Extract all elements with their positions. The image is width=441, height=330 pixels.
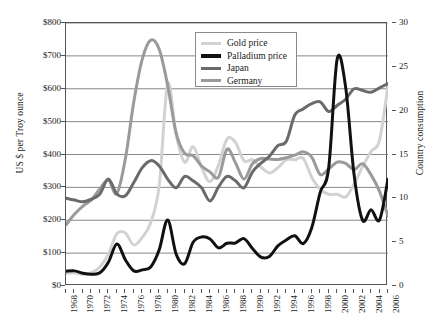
x-axis-tick (107, 289, 108, 293)
x-axis-tick-label: 1988 (238, 295, 248, 313)
x-axis-tick (167, 289, 168, 293)
x-axis-tick (268, 289, 269, 293)
x-axis-tick (243, 289, 244, 293)
y-axis-right-tick-label: 5 (399, 236, 421, 246)
x-axis-tick-label: 1996 (306, 295, 316, 313)
x-axis-tick-label: 2004 (374, 295, 384, 313)
x-axis-tick-label: 1986 (221, 295, 231, 313)
y-axis-right-tick (392, 285, 396, 286)
legend-swatch (201, 42, 221, 45)
y-axis-left-tick-label: $100 (31, 247, 61, 257)
x-axis-tick (285, 289, 286, 293)
x-axis-tick-label: 2002 (357, 295, 367, 313)
x-axis-tick (192, 289, 193, 293)
x-axis-tick (336, 289, 337, 293)
x-axis-tick (209, 289, 210, 293)
y-axis-right-tick-label: 25 (399, 61, 421, 71)
x-axis-tick (370, 289, 371, 293)
legend-item: Gold price (201, 37, 292, 50)
x-axis-tick (184, 289, 185, 293)
x-axis-tick-label: 1984 (204, 295, 214, 313)
x-axis-tick-label: 1990 (255, 295, 265, 313)
x-axis-tick (226, 289, 227, 293)
x-axis-tick (277, 289, 278, 293)
x-axis-tick (260, 289, 261, 293)
series-line (66, 83, 388, 201)
legend-swatch (201, 67, 221, 70)
y-axis-right-tick-label: 30 (399, 17, 421, 27)
x-axis-tick-label: 2000 (340, 295, 350, 313)
x-axis-tick (158, 289, 159, 293)
y-axis-right-ticks: 051015202530 (392, 22, 416, 285)
x-axis-tick (116, 289, 117, 293)
x-axis-tick (82, 289, 83, 293)
x-axis-tick (362, 289, 363, 293)
legend-label: Japan (227, 62, 249, 75)
x-axis-tick (65, 289, 66, 293)
x-axis-tick (73, 289, 74, 293)
y-axis-left-tick-label: $800 (31, 17, 61, 27)
x-axis-tick (218, 289, 219, 293)
legend-swatch (201, 54, 221, 58)
y-axis-right-tick-label: 20 (399, 105, 421, 115)
x-axis-tick (99, 289, 100, 293)
legend-label: Gold price (227, 37, 267, 50)
x-axis-tick (124, 289, 125, 293)
x-axis-tick-label: 2006 (391, 295, 401, 313)
y-axis-right-tick-label: 0 (399, 280, 421, 290)
y-axis-right-tick-label: 15 (399, 149, 421, 159)
x-axis-tick (311, 289, 312, 293)
x-axis-tick-label: 1972 (102, 295, 112, 313)
x-axis-tick (141, 289, 142, 293)
x-axis-tick (353, 289, 354, 293)
x-axis-tick-label: 1994 (289, 295, 299, 313)
y-axis-left-tick (61, 285, 65, 286)
y-axis-right-tick (392, 66, 396, 67)
x-axis-tick (328, 289, 329, 293)
legend-label: Palladium price (227, 50, 287, 63)
y-axis-left-ticks: $0$100$200$300$400$500$600$700$800 (26, 22, 61, 285)
x-axis-tick (150, 289, 151, 293)
x-axis-tick-label: 1970 (85, 295, 95, 313)
x-axis-tick (90, 289, 91, 293)
y-axis-right-tick (392, 197, 396, 198)
x-axis-tick-label: 1982 (187, 295, 197, 313)
y-axis-right-tick-label: 10 (399, 192, 421, 202)
y-axis-left-tick-label: $400 (31, 149, 61, 159)
x-axis-tick (201, 289, 202, 293)
x-axis-tick-label: 1974 (119, 295, 129, 313)
y-axis-left-tick-label: $200 (31, 214, 61, 224)
x-axis-tick (294, 289, 295, 293)
x-axis-tick (319, 289, 320, 293)
x-axis-tick (251, 289, 252, 293)
y-axis-left-tick-label: $500 (31, 116, 61, 126)
x-axis-tick-label: 1992 (272, 295, 282, 313)
x-axis-ticks: 1968197019721974197619781980198219841986… (65, 289, 387, 329)
x-axis-tick (234, 289, 235, 293)
x-axis-tick-label: 1976 (136, 295, 146, 313)
x-axis-tick-label: 1998 (323, 295, 333, 313)
legend-item: Palladium price (201, 50, 292, 63)
y-axis-left-title: US $ per Troy ounce (15, 68, 25, 198)
x-axis-tick (302, 289, 303, 293)
chart-legend: Gold pricePalladium priceJapanGermany (195, 32, 297, 87)
y-axis-right-title: Country consumption (415, 68, 425, 198)
x-axis-tick-label: 1978 (153, 295, 163, 313)
y-axis-left-tick-label: $700 (31, 50, 61, 60)
x-axis-tick (175, 289, 176, 293)
y-axis-left-tick-label: $300 (31, 181, 61, 191)
legend-label: Germany (227, 75, 262, 88)
y-axis-right-tick (392, 241, 396, 242)
legend-item: Japan (201, 62, 292, 75)
legend-item: Germany (201, 75, 292, 88)
chart-container: US $ per Troy ounce Country consumption … (0, 0, 441, 330)
y-axis-left-tick-label: $600 (31, 83, 61, 93)
legend-swatch (201, 79, 221, 82)
y-axis-right-tick (392, 22, 396, 23)
x-axis-tick (387, 289, 388, 293)
y-axis-right-tick (392, 154, 396, 155)
x-axis-tick (379, 289, 380, 293)
x-axis-tick (345, 289, 346, 293)
y-axis-right-tick (392, 110, 396, 111)
x-axis-tick-label: 1968 (69, 295, 79, 313)
